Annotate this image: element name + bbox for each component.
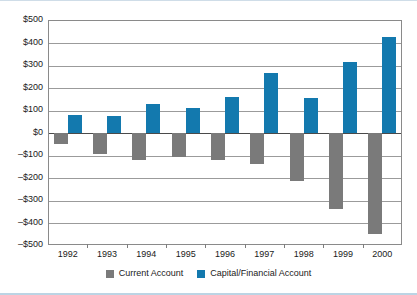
x-axis-tick-label: 2000 (363, 249, 402, 260)
x-axis-tick-mark (284, 244, 285, 248)
y-axis-tick-label: $100 (0, 105, 43, 114)
x-axis-tick-label: 1992 (48, 249, 87, 260)
bar-group (363, 20, 402, 245)
chart-figure: $500$400$300$200$100$0–$100–$200–$300–$4… (0, 0, 417, 295)
bar-capital-financial-account (68, 115, 82, 133)
y-axis-tick-label: –$500 (0, 240, 43, 249)
bar-current-account (93, 133, 107, 154)
x-axis-tick-mark (363, 244, 364, 248)
bar-current-account (290, 133, 304, 181)
x-axis-tick-mark (87, 244, 88, 248)
bar-capital-financial-account (107, 116, 121, 133)
bar-group (205, 20, 244, 245)
bar-current-account (211, 133, 225, 160)
x-axis-tick-label: 1998 (284, 249, 323, 260)
bar-capital-financial-account (264, 73, 278, 133)
legend-item: Current Account (106, 269, 184, 278)
y-axis-tick-label: $0 (0, 128, 43, 137)
x-axis-tick-label: 1995 (166, 249, 205, 260)
x-axis-tick-mark (205, 244, 206, 248)
legend-swatch-icon (106, 270, 114, 278)
bar-current-account (54, 133, 68, 144)
bar-group (127, 20, 166, 245)
bar-capital-financial-account (146, 104, 160, 132)
bar-current-account (132, 133, 146, 160)
chart-legend: Current AccountCapital/Financial Account (0, 269, 417, 278)
bar-capital-financial-account (382, 37, 396, 133)
bar-capital-financial-account (186, 108, 200, 133)
x-axis-tick-mark (245, 244, 246, 248)
x-axis-tick-label: 1996 (205, 249, 244, 260)
x-axis-tick-mark (323, 244, 324, 248)
y-axis-tick-label: –$100 (0, 150, 43, 159)
x-axis-tick-label: 1997 (245, 249, 284, 260)
bar-current-account (172, 133, 186, 158)
x-axis-tick-mark (166, 244, 167, 248)
y-axis-tick-label: $500 (0, 15, 43, 24)
bar-group (245, 20, 284, 245)
bar-current-account (329, 133, 343, 210)
y-axis-tick-label: –$400 (0, 218, 43, 227)
bar-group (284, 20, 323, 245)
bar-group (166, 20, 205, 245)
legend-item: Capital/Financial Account (197, 269, 311, 278)
bar-capital-financial-account (343, 62, 357, 133)
x-axis-tick-mark (127, 244, 128, 248)
x-axis-tick-label: 1993 (87, 249, 126, 260)
y-axis-tick-label: $300 (0, 60, 43, 69)
legend-item-label: Capital/Financial Account (210, 269, 311, 278)
x-axis-tick-label: 1999 (323, 249, 362, 260)
y-axis-tick-label: $200 (0, 83, 43, 92)
bar-capital-financial-account (304, 98, 318, 133)
bar-capital-financial-account (225, 97, 239, 133)
bar-group (48, 20, 87, 245)
bar-group (87, 20, 126, 245)
legend-swatch-icon (197, 270, 205, 278)
bar-group (323, 20, 362, 245)
bar-current-account (250, 133, 264, 165)
legend-item-label: Current Account (119, 269, 184, 278)
x-axis-labels: 199219931994199519961997199819992000 (48, 249, 402, 263)
y-axis-tick-label: –$300 (0, 195, 43, 204)
x-axis-tick-label: 1994 (127, 249, 166, 260)
bars-layer (48, 20, 402, 245)
y-axis-tick-label: –$200 (0, 173, 43, 182)
y-axis-tick-label: $400 (0, 38, 43, 47)
bar-current-account (368, 133, 382, 234)
